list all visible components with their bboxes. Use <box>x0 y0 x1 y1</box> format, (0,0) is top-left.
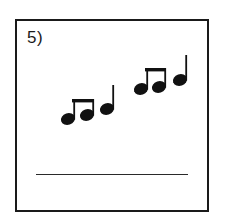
eighth-note-5 <box>150 68 167 95</box>
eighth-note-1 <box>59 99 76 127</box>
question-box: 5) <box>15 19 209 212</box>
beam-group-2 <box>145 68 166 71</box>
eighth-note-4 <box>132 68 149 97</box>
eighth-note-2 <box>78 99 95 123</box>
quarter-note-6 <box>171 55 188 88</box>
music-notation-svg <box>17 21 207 171</box>
note-group-2 <box>132 55 188 97</box>
music-notation-area <box>17 21 207 171</box>
worksheet-root: 5) <box>0 0 225 220</box>
quarter-note-3 <box>98 85 115 117</box>
note-group-1 <box>59 85 115 127</box>
answer-line[interactable] <box>36 174 188 175</box>
beam-group-1 <box>72 99 94 102</box>
